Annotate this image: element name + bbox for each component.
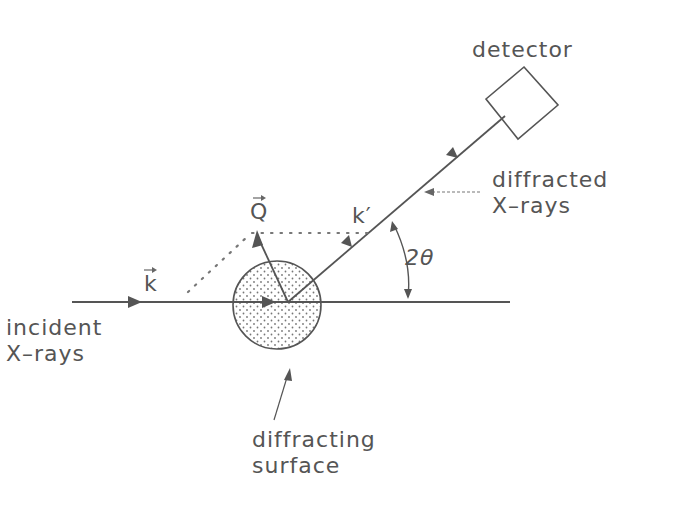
q-label: Q — [250, 200, 268, 224]
surface-pointer-icon — [284, 368, 292, 381]
diffraction-diagram: detector diffracted X–rays incident X–ra… — [0, 0, 682, 512]
k-label: k — [144, 272, 158, 296]
surface-label-1: diffracting — [252, 428, 376, 452]
detector-label: detector — [472, 38, 573, 62]
diffracted-label-2: X–rays — [492, 194, 571, 218]
k-prime-label: k′ — [352, 204, 372, 228]
sample-circle — [233, 261, 321, 349]
incident-arrow-icon — [128, 296, 142, 308]
diffracted-label-1: diffracted — [492, 168, 608, 192]
angle-arrow-bottom-icon — [404, 289, 412, 299]
diffracted-pointer-icon — [424, 188, 434, 196]
incident-label-1: incident — [6, 316, 102, 340]
diffracted-beam — [288, 116, 505, 302]
incident-label-2: X–rays — [6, 342, 85, 366]
kprime-arrow-icon — [341, 235, 352, 247]
detector-box — [486, 67, 558, 139]
diffracted-arrow-icon — [446, 147, 458, 158]
angle-label: 2θ — [405, 246, 434, 270]
surface-label-2: surface — [252, 454, 340, 478]
surface-pointer — [274, 374, 288, 420]
